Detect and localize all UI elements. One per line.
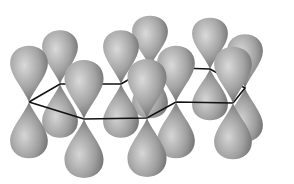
benzene-orbital-diagram [0, 0, 294, 184]
p-orbital-c1 [10, 46, 48, 159]
orbital-canvas [0, 0, 294, 184]
